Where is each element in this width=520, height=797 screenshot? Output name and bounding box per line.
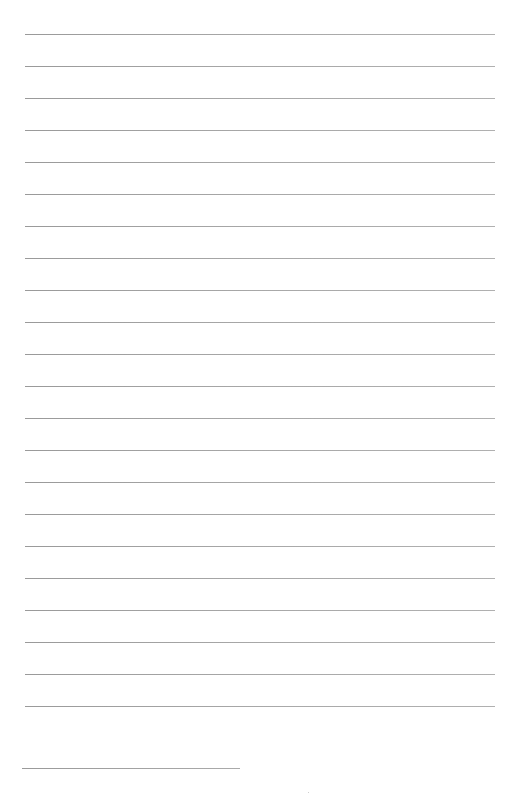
ruled-line <box>25 386 495 387</box>
ruled-line <box>25 258 495 259</box>
signature-line <box>22 768 240 769</box>
paper-speck <box>308 792 309 793</box>
ruled-line <box>25 226 495 227</box>
ruled-line <box>25 482 495 483</box>
ruled-line <box>25 162 495 163</box>
ruled-line <box>25 514 495 515</box>
ruled-line <box>25 290 495 291</box>
ruled-line <box>25 130 495 131</box>
ruled-line <box>25 322 495 323</box>
ruled-line <box>25 642 495 643</box>
ruled-line <box>25 578 495 579</box>
ruled-line <box>25 706 495 707</box>
lined-paper-page <box>0 0 520 797</box>
ruled-line <box>25 610 495 611</box>
ruled-line <box>25 194 495 195</box>
ruled-line <box>25 98 495 99</box>
ruled-line <box>25 674 495 675</box>
ruled-line <box>25 66 495 67</box>
ruled-line <box>25 354 495 355</box>
ruled-line <box>25 546 495 547</box>
ruled-line <box>25 450 495 451</box>
ruled-line <box>25 418 495 419</box>
ruled-line <box>25 34 495 35</box>
